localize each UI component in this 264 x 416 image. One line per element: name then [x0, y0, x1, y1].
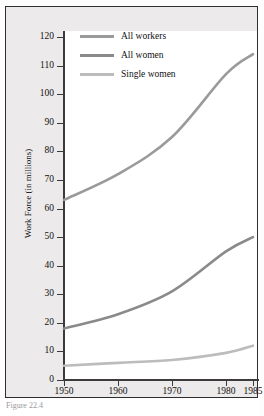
y-tick-label: 60 [10, 204, 54, 214]
y-tick-mark [57, 237, 63, 238]
y-tick-label: 20 [10, 318, 54, 328]
y-tick-label-text: 40 [12, 261, 54, 271]
series-line-all-women [64, 237, 253, 328]
x-tick-label: 1950 [44, 386, 84, 396]
legend-item-label: All women [121, 50, 163, 60]
legend-item-all-women: All women [80, 50, 176, 60]
y-tick-label: 0 [10, 375, 54, 385]
x-tick-label: 1985 [233, 386, 264, 396]
y-tick-mark [57, 209, 63, 210]
scan-edge-top [0, 0, 264, 5]
y-tick-mark [57, 94, 63, 95]
y-tick-label: 70 [10, 175, 54, 185]
y-tick-label-text: 30 [12, 289, 54, 299]
y-tick-label: 100 [10, 89, 54, 99]
y-tick-label-text: 20 [12, 318, 54, 328]
y-tick-label-text: 10 [12, 346, 54, 356]
y-tick-label-text: 100 [12, 89, 54, 99]
y-tick-label: 10 [10, 346, 54, 356]
y-tick-label: 30 [10, 289, 54, 299]
figure-frame: Work Force (in millions) 120110100908070… [5, 6, 258, 398]
y-tick-mark [57, 323, 63, 324]
legend-swatch-icon [80, 35, 114, 38]
legend-item-all-workers: All workers [80, 31, 176, 41]
y-tick-mark [57, 266, 63, 267]
y-tick-label: 90 [10, 118, 54, 128]
legend-item-label: All workers [121, 31, 166, 41]
y-tick-mark [57, 123, 63, 124]
y-tick-label-text: 0 [12, 375, 54, 385]
y-tick-label-text: 90 [12, 118, 54, 128]
y-tick-mark [57, 151, 63, 152]
y-tick-label: 80 [10, 146, 54, 156]
y-tick-mark [57, 37, 63, 38]
legend-swatch-icon [80, 54, 114, 57]
y-tick-label: 40 [10, 261, 54, 271]
chart-legend: All workersAll womenSingle women [80, 31, 176, 79]
legend-swatch-icon [80, 73, 114, 76]
scan-edge-right [259, 0, 264, 416]
y-tick-label-text: 50 [12, 232, 54, 242]
x-tick-label: 1960 [98, 386, 138, 396]
chart-curves [64, 31, 257, 381]
figure-caption: Figure 22.4 [6, 401, 43, 410]
y-tick-mark [57, 66, 63, 67]
y-tick-label-text: 80 [12, 146, 54, 156]
y-tick-label-text: 60 [12, 204, 54, 214]
y-tick-mark [57, 380, 63, 381]
x-tick-label: 1970 [152, 386, 192, 396]
y-tick-mark [57, 294, 63, 295]
y-tick-label-text: 110 [12, 61, 54, 71]
legend-item-single-women: Single women [80, 69, 176, 79]
y-tick-mark [57, 351, 63, 352]
series-line-single-women [64, 346, 253, 366]
y-tick-label: 50 [10, 232, 54, 242]
y-tick-label: 110 [10, 61, 54, 71]
y-tick-mark [57, 180, 63, 181]
y-tick-label: 120 [10, 32, 54, 42]
y-tick-label-text: 120 [12, 32, 54, 42]
legend-item-label: Single women [121, 69, 176, 79]
y-tick-label-text: 70 [12, 175, 54, 185]
